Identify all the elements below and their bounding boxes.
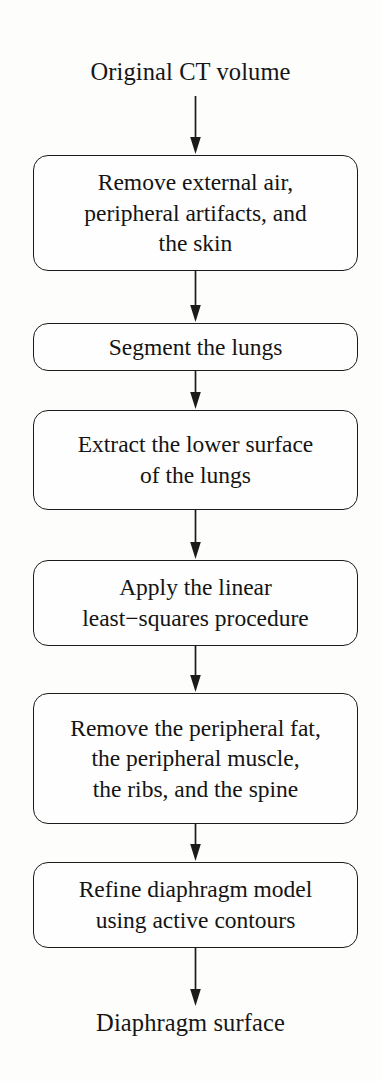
node-label-line: peripheral artifacts, and (40, 198, 351, 229)
node-label: Apply the linear least−squares procedure (34, 572, 357, 633)
node-label-line: Remove external air, (40, 167, 351, 198)
flow-start-label: Original CT volume (0, 58, 381, 87)
node-label-line: using active contours (40, 905, 351, 936)
edge-arrow-node-3-to-node-4 (0, 646, 381, 694)
node-label-line: Remove the peripheral fat, (40, 713, 351, 744)
node-label-line: Refine diaphragm model (40, 874, 351, 905)
node-label: Remove external air, peripheral artifact… (34, 167, 357, 259)
process-node-refine-active-contours: Refine diaphragm model using active cont… (33, 862, 358, 948)
node-label-line: the ribs, and the spine (40, 774, 351, 805)
node-label: Remove the peripheral fat, the periphera… (34, 713, 357, 805)
edge-arrow-node-4-to-node-5 (0, 824, 381, 863)
process-node-remove-fat-muscle-ribs-spine: Remove the peripheral fat, the periphera… (33, 693, 358, 824)
process-node-remove-external-air: Remove external air, peripheral artifact… (33, 155, 358, 271)
process-node-linear-least-squares: Apply the linear least−squares procedure (33, 560, 358, 646)
edge-arrow-node-5-to-end (0, 948, 381, 1008)
node-label: Refine diaphragm model using active cont… (34, 874, 357, 935)
node-label-line: the skin (40, 228, 351, 259)
node-label-line: Extract the lower surface (40, 429, 351, 460)
node-label-line: of the lungs (40, 460, 351, 491)
node-label: Extract the lower surface of the lungs (34, 429, 357, 490)
process-node-extract-lower-surface: Extract the lower surface of the lungs (33, 410, 358, 510)
node-label-line: Segment the lungs (40, 332, 351, 363)
edge-arrow-node-2-to-node-3 (0, 510, 381, 561)
flowchart-figure: Original CT volume Remove external air, … (0, 0, 381, 1081)
node-label-line: the peripheral muscle, (40, 743, 351, 774)
node-label-line: Apply the linear (40, 572, 351, 603)
node-label: Segment the lungs (34, 332, 357, 363)
edge-arrow-node-0-to-node-1 (0, 271, 381, 324)
process-node-segment-lungs: Segment the lungs (33, 323, 358, 371)
node-label-line: least−squares procedure (40, 603, 351, 634)
flow-end-label: Diaphragm surface (0, 1009, 381, 1038)
edge-arrow-node-1-to-node-2 (0, 371, 381, 411)
edge-arrow-start-to-node-0 (0, 96, 381, 156)
